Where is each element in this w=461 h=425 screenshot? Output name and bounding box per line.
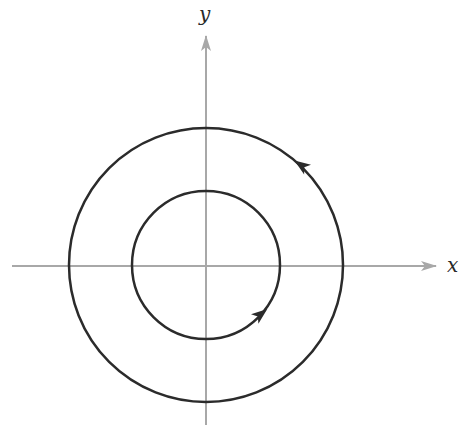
diagram-svg [0,0,461,425]
outer-orbit-arrow-icon [291,155,311,174]
phase-portrait-diagram: y x [0,0,461,425]
y-axis-label: y [199,4,210,24]
x-axis-label: x [447,255,458,275]
